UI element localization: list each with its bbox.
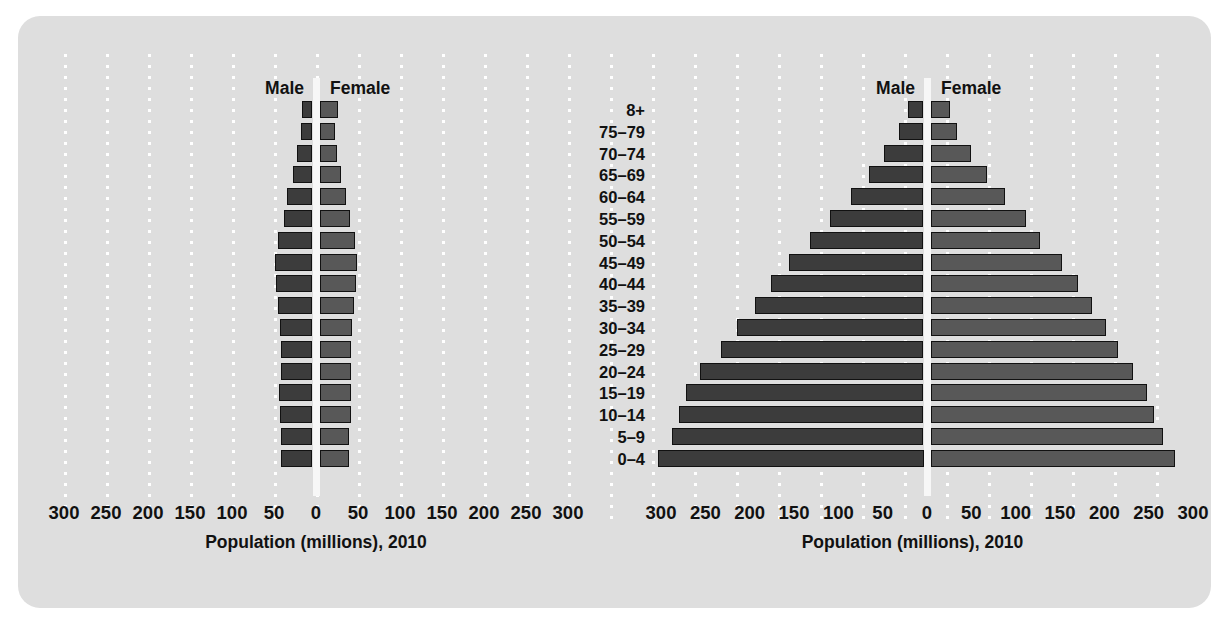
age-label-50-54: 50–54 [559, 231, 645, 253]
chart-right-developing: Male Female 3002502001501005005010015020… [614, 16, 1211, 608]
pyramid-row [614, 209, 1211, 231]
bar-male-50-54 [278, 232, 312, 249]
legend-male-left: Male [238, 78, 304, 99]
bar-male-75-79 [301, 123, 313, 140]
x-axis-left: 30025020015010050050100150200250300 [18, 502, 614, 528]
x-tick-right-10: 200 [1089, 502, 1120, 524]
bar-male-0-4 [281, 450, 312, 467]
pyramid-row [614, 274, 1211, 296]
age-group-labels: 8+75–7970–7465–6960–6455–5950–5445–4940–… [559, 100, 645, 492]
bar-male-0-4 [658, 450, 924, 467]
bar-female-35-39 [320, 297, 354, 314]
bar-male-20-24 [700, 363, 923, 380]
legend-female-right: Female [941, 78, 1031, 99]
bar-female-75-79 [320, 123, 335, 140]
bar-female-65-69 [320, 166, 341, 183]
bar-male-5-9 [281, 428, 312, 445]
pyramid-row [614, 122, 1211, 144]
x-tick-right-8: 100 [1000, 502, 1031, 524]
bar-male-15-19 [686, 384, 924, 401]
bar-male-40-44 [276, 275, 312, 292]
x-tick-right-1: 250 [690, 502, 721, 524]
age-label-35-39: 35–39 [559, 296, 645, 318]
bar-male-30-34 [280, 319, 313, 336]
bar-female-10-14 [320, 406, 351, 423]
pyramid-row [614, 144, 1211, 166]
bar-male-70-74 [884, 145, 924, 162]
x-tick-right-0: 300 [646, 502, 677, 524]
population-pyramid-figure: Male Female 3002502001501005005010015020… [0, 0, 1229, 635]
pyramid-row [614, 405, 1211, 427]
bar-female-65-69 [931, 166, 988, 183]
x-tick-right-5: 50 [872, 502, 893, 524]
pyramid-row [614, 296, 1211, 318]
x-tick-left-1: 250 [91, 502, 122, 524]
bar-female-50-54 [931, 232, 1041, 249]
x-tick-left-4: 100 [217, 502, 248, 524]
bar-male-60-64 [851, 188, 924, 205]
pyramid-row [614, 383, 1211, 405]
bar-female-60-64 [931, 188, 1005, 205]
bar-female-60-64 [320, 188, 347, 205]
age-label-45-49: 45–49 [559, 253, 645, 275]
x-tick-left-11: 250 [511, 502, 542, 524]
age-label-40-44: 40–44 [559, 274, 645, 296]
bar-female-30-34 [931, 319, 1107, 336]
x-tick-right-12: 300 [1178, 502, 1209, 524]
bar-male-10-14 [280, 406, 313, 423]
legend-female-left: Female [330, 78, 420, 99]
bar-female-15-19 [931, 384, 1147, 401]
bar-female-8+ [320, 101, 338, 118]
age-label-20-24: 20–24 [559, 362, 645, 384]
bar-female-5-9 [931, 428, 1163, 445]
bar-male-8+ [302, 101, 312, 118]
bar-female-30-34 [320, 319, 353, 336]
bar-female-15-19 [320, 384, 352, 401]
bar-female-45-49 [931, 254, 1062, 271]
bar-male-8+ [908, 101, 924, 118]
bar-female-0-4 [320, 450, 349, 467]
bar-female-20-24 [320, 363, 351, 380]
bar-female-35-39 [931, 297, 1092, 314]
age-label-60-64: 60–64 [559, 187, 645, 209]
bar-male-55-59 [284, 210, 313, 227]
x-axis-title-right: Population (millions), 2010 [614, 532, 1211, 553]
x-tick-right-4: 100 [823, 502, 854, 524]
x-tick-left-0: 300 [49, 502, 80, 524]
bar-male-20-24 [281, 363, 313, 380]
age-label-0-4: 0–4 [559, 449, 645, 471]
bar-male-15-19 [279, 384, 313, 401]
bar-male-35-39 [278, 297, 312, 314]
age-label-55-59: 55–59 [559, 209, 645, 231]
age-label-30-34: 30–34 [559, 318, 645, 340]
bar-female-5-9 [320, 428, 349, 445]
pyramid-row [614, 449, 1211, 471]
plot-area-right [614, 100, 1211, 492]
bar-male-45-49 [275, 254, 313, 271]
x-tick-left-12: 300 [553, 502, 584, 524]
x-tick-left-3: 150 [175, 502, 206, 524]
bar-female-40-44 [931, 275, 1078, 292]
pyramid-row [614, 253, 1211, 275]
bar-male-30-34 [737, 319, 923, 336]
pyramid-row [614, 231, 1211, 253]
bar-male-25-29 [721, 341, 923, 358]
bar-male-75-79 [899, 123, 924, 140]
x-axis-title-left: Population (millions), 2010 [18, 532, 614, 553]
x-tick-right-6: 0 [922, 502, 932, 524]
x-tick-left-10: 200 [469, 502, 500, 524]
x-tick-left-5: 50 [264, 502, 285, 524]
bar-female-8+ [931, 101, 951, 118]
bar-female-20-24 [931, 363, 1133, 380]
bar-female-45-49 [320, 254, 358, 271]
bar-female-0-4 [931, 450, 1176, 467]
pyramid-row [614, 165, 1211, 187]
bar-male-55-59 [830, 210, 923, 227]
x-tick-right-9: 150 [1045, 502, 1076, 524]
bar-male-40-44 [771, 275, 924, 292]
chart-panel: Male Female 3002502001501005005010015020… [18, 16, 1211, 608]
bar-female-50-54 [320, 232, 355, 249]
x-tick-left-7: 50 [348, 502, 369, 524]
bar-male-25-29 [281, 341, 313, 358]
bar-female-10-14 [931, 406, 1154, 423]
